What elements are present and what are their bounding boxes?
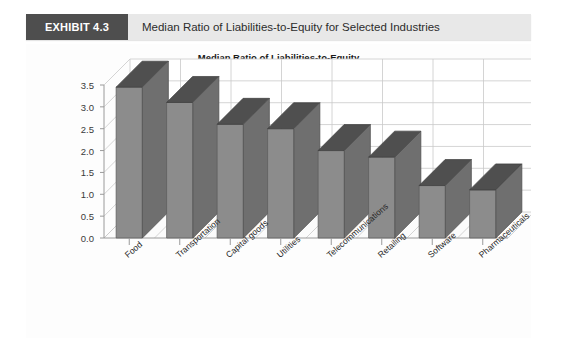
y-axis-tick-label: 2.5 [60, 123, 94, 134]
bar-column [116, 61, 168, 238]
bar-chart-plot-area: 0.00.51.01.52.02.53.03.5FoodTransportati… [26, 44, 531, 338]
exhibit-number-badge: EXHIBIT 4.3 [26, 14, 128, 40]
bar-column [167, 76, 219, 238]
exhibit-header: EXHIBIT 4.3 Median Ratio of Liabilities-… [26, 14, 531, 40]
y-axis-tick-label: 3.0 [60, 101, 94, 112]
y-axis-tick-label: 1.5 [60, 167, 94, 178]
y-axis-tick-label: 2.0 [60, 145, 94, 156]
y-axis-tick-label: 3.5 [60, 80, 94, 91]
chart-svg [26, 44, 531, 338]
bar-column [268, 103, 320, 238]
bar-column [217, 98, 269, 238]
y-axis-tick-label: 1.0 [60, 189, 94, 200]
y-axis-tick-label: 0.5 [60, 211, 94, 222]
exhibit-root: EXHIBIT 4.3 Median Ratio of Liabilities-… [0, 0, 585, 349]
chart-panel: Median Ratio of Liabilities-to-Equity 0.… [26, 44, 531, 338]
exhibit-caption: Median Ratio of Liabilities-to-Equity fo… [128, 14, 440, 40]
y-axis-tick-label: 0.0 [60, 233, 94, 244]
